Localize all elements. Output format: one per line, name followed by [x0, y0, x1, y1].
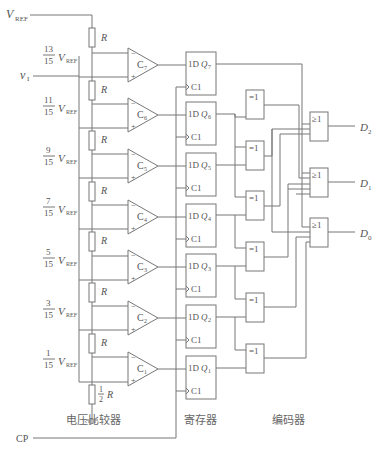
svg-text:C: C [137, 261, 144, 272]
label-encoder: 编码器 [272, 413, 305, 427]
svg-text:C: C [137, 363, 144, 374]
or-gates: ≥1 ≥1 ≥1 [310, 112, 355, 247]
svg-text:11: 11 [44, 95, 53, 105]
svg-text:1D: 1D [188, 160, 200, 170]
svg-text:Q: Q [201, 363, 208, 373]
svg-text:1D: 1D [188, 312, 200, 322]
svg-text:3: 3 [144, 267, 147, 273]
section-labels: 电压比较器 寄存器 编码器 [66, 413, 305, 427]
svg-text:=1: =1 [249, 143, 259, 153]
svg-text:R: R [100, 337, 107, 348]
svg-text:REF: REF [66, 362, 78, 368]
svg-text:C: C [137, 160, 144, 171]
label-voltage-comparator: 电压比较器 [66, 413, 121, 427]
svg-text:1: 1 [99, 385, 103, 394]
svg-text:D: D [359, 177, 368, 189]
svg-text:−: − [131, 353, 136, 362]
flipflop-q1: 1D Q 1 C1 [176, 356, 216, 399]
svg-text:+: + [131, 72, 136, 81]
or-gate-d0: ≥1 [310, 218, 355, 247]
xor-gate-5: =1 [246, 293, 264, 322]
xor-gate-1: =1 [246, 90, 264, 119]
svg-text:V: V [58, 355, 66, 367]
svg-text:REF: REF [66, 109, 78, 115]
vi-input: v I [20, 68, 128, 382]
svg-text:9: 9 [46, 145, 51, 155]
svg-text:15: 15 [44, 157, 54, 167]
encoder-wiring [264, 105, 310, 358]
svg-text:C1: C1 [191, 234, 202, 244]
digital-outputs: D2 D1 D0 [359, 121, 372, 242]
svg-text:Q: Q [201, 312, 208, 322]
svg-text:C1: C1 [191, 183, 202, 193]
flipflop-q3: 1D Q 3 C1 [176, 254, 216, 297]
svg-text:R: R [100, 84, 107, 95]
svg-text:+: + [131, 173, 136, 182]
comparator-c7: − + C 7 [128, 48, 186, 82]
comparator-c6: − + C 6 [128, 98, 186, 132]
svg-text:D: D [359, 121, 368, 133]
svg-text:=1: =1 [249, 244, 259, 254]
svg-text:1D: 1D [188, 109, 200, 119]
svg-text:15: 15 [44, 208, 54, 218]
flipflop-q6: 1D Q 6 C1 [176, 102, 216, 145]
svg-text:=1: =1 [249, 346, 259, 356]
svg-text:C: C [137, 211, 144, 222]
svg-text:2: 2 [208, 317, 211, 323]
flipflop-q7: 1D Q 7 C1 [176, 52, 216, 95]
svg-text:3: 3 [208, 266, 211, 272]
xor-gates: =1 =1 =1 =1 =1 =1 [246, 90, 264, 373]
svg-text:≥1: ≥1 [312, 170, 321, 180]
svg-text:+: + [131, 325, 136, 334]
svg-text:Q: Q [201, 261, 208, 271]
svg-text:D: D [359, 227, 368, 239]
svg-text:R: R [100, 32, 107, 43]
svg-text:1D: 1D [188, 363, 200, 373]
comparators: − + C 7 − + C 6 − + C 5 − + C 4 [128, 48, 186, 386]
svg-text:I: I [27, 75, 30, 83]
vref-input: V REF [6, 7, 92, 28]
svg-text:+: + [131, 224, 136, 233]
svg-text:2: 2 [368, 128, 372, 136]
svg-text:1D: 1D [188, 59, 200, 69]
svg-text:=1: =1 [249, 193, 259, 203]
svg-text:1: 1 [46, 348, 51, 358]
svg-text:Q: Q [201, 160, 208, 170]
svg-text:15: 15 [44, 310, 54, 320]
svg-text:REF: REF [66, 261, 78, 267]
svg-text:V: V [6, 7, 15, 21]
svg-text:REF: REF [66, 159, 78, 165]
svg-text:REF: REF [66, 58, 78, 64]
svg-text:C1: C1 [191, 386, 202, 396]
xor-gate-6: =1 [246, 344, 264, 373]
svg-text:5: 5 [46, 247, 51, 257]
svg-text:1: 1 [368, 184, 372, 192]
svg-text:7: 7 [144, 65, 147, 71]
svg-text:C: C [137, 59, 144, 70]
xor-gate-3: =1 [246, 191, 264, 220]
svg-text:Q: Q [201, 211, 208, 221]
svg-text:7: 7 [208, 64, 211, 70]
svg-text:C1: C1 [191, 335, 202, 345]
svg-text:V: V [58, 152, 66, 164]
svg-text:R: R [100, 185, 107, 196]
flipflop-q4: 1D Q 4 C1 [176, 204, 216, 247]
flipflop-q5: 1D Q 5 C1 [176, 153, 216, 196]
or-gate-d2: ≥1 [310, 112, 355, 141]
xor-gate-4: =1 [246, 242, 264, 271]
svg-text:V: V [58, 102, 66, 114]
svg-text:13: 13 [44, 44, 54, 54]
svg-text:−: − [131, 302, 136, 311]
comparator-c1: − + C 1 [128, 352, 186, 386]
svg-text:CP: CP [16, 433, 29, 444]
svg-text:7: 7 [46, 196, 51, 206]
svg-text:1D: 1D [188, 261, 200, 271]
svg-text:−: − [131, 201, 136, 210]
svg-text:1: 1 [208, 368, 211, 374]
svg-text:15: 15 [44, 259, 54, 269]
svg-text:=1: =1 [249, 295, 259, 305]
svg-text:Q: Q [201, 109, 208, 119]
svg-text:V: V [58, 203, 66, 215]
tap-labels: 13 15 V REF 11 15 V REF 9 15 V REF 7 15 … [43, 44, 78, 370]
comparator-c2: − + C 2 [128, 301, 186, 335]
